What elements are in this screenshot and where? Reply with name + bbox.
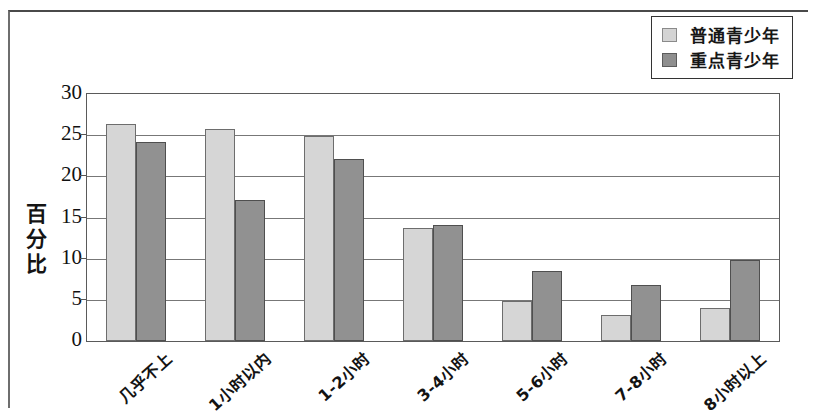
bar	[106, 124, 136, 341]
bar	[334, 159, 364, 341]
legend-item: 普通青少年	[662, 22, 780, 47]
gridline	[87, 135, 779, 136]
gridline	[87, 176, 779, 177]
legend: 普通青少年重点青少年	[651, 16, 793, 79]
y-tick-label: 5	[24, 286, 82, 311]
y-tick-label: 0	[24, 327, 82, 352]
bar	[730, 260, 760, 342]
x-tick-label: 5-6小时	[510, 346, 573, 406]
legend-label: 普通青少年	[690, 22, 780, 47]
light-gray-swatch	[662, 28, 677, 42]
y-tick-label: 25	[24, 121, 82, 146]
x-tick-label: 1-2小时	[312, 346, 375, 406]
y-tick-label: 30	[24, 80, 82, 105]
bar	[235, 200, 265, 341]
bar	[433, 225, 463, 341]
bar	[304, 136, 334, 341]
x-tick-label: 几乎不上	[112, 346, 177, 408]
x-tick-label: 8小时以上	[697, 346, 771, 416]
bar	[136, 142, 166, 341]
bar	[403, 228, 433, 341]
x-tick-label: 3-4小时	[411, 346, 474, 406]
y-tick-label: 15	[24, 204, 82, 229]
bar	[601, 315, 631, 341]
legend-label: 重点青少年	[690, 47, 780, 72]
bar	[502, 301, 532, 341]
bar-group	[106, 94, 166, 341]
dark-gray-swatch	[662, 53, 677, 67]
bar	[700, 308, 730, 341]
plot-area	[86, 93, 780, 342]
x-tick-label: 7-8小时	[609, 346, 672, 406]
bar-group	[205, 94, 265, 341]
bar-group	[304, 94, 364, 341]
y-tick-label: 20	[24, 162, 82, 187]
y-axis: 051015202530	[10, 12, 82, 420]
bar	[631, 285, 661, 341]
legend-item: 重点青少年	[662, 47, 780, 72]
bar	[205, 129, 235, 341]
x-axis-labels: 几乎不上1小时以内1-2小时3-4小时5-6小时7-8小时8小时以上	[86, 342, 778, 420]
x-tick-label: 1小时以内	[203, 346, 277, 416]
bar	[532, 271, 562, 341]
y-tick-label: 10	[24, 245, 82, 270]
gridline	[87, 218, 779, 219]
chart-figure: 百分比 051015202530 几乎不上1小时以内1-2小时3-4小时5-6小…	[8, 10, 808, 408]
